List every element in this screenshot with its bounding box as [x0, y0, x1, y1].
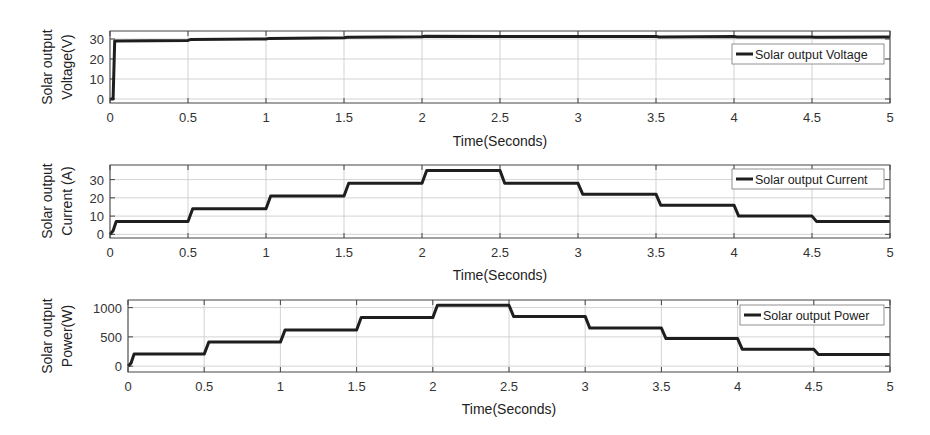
- voltage-ytick-labels: 0102030: [90, 32, 104, 107]
- xtick-label: 2: [418, 245, 425, 260]
- xtick-label: 0: [124, 379, 131, 394]
- xtick-label: 4.5: [805, 379, 823, 394]
- xtick-label: 2: [418, 110, 425, 125]
- xtick-label: 3: [582, 379, 589, 394]
- xtick-label: 3.5: [647, 110, 665, 125]
- xtick-label: 1.5: [348, 379, 366, 394]
- xtick-label: 5: [886, 379, 893, 394]
- power-xtick-labels: 00.511.522.533.544.55: [124, 379, 893, 394]
- xtick-label: 2.5: [491, 245, 509, 260]
- xtick-label: 5: [886, 110, 893, 125]
- xtick-label: 4: [730, 110, 737, 125]
- ytick-label: 0: [97, 227, 104, 242]
- ytick-label: 30: [90, 32, 104, 47]
- xtick-label: 4.5: [803, 110, 821, 125]
- ytick-label: 500: [100, 330, 122, 345]
- xtick-label: 1.5: [335, 110, 353, 125]
- voltage-subplot: 00.511.522.533.544.550102030Time(Seconds…: [39, 29, 894, 149]
- voltage-ylabel-line: Solar output: [39, 29, 55, 105]
- xtick-label: 1: [262, 245, 269, 260]
- ytick-label: 10: [90, 209, 104, 224]
- figure-canvas: 00.511.522.533.544.550102030Time(Seconds…: [0, 0, 930, 435]
- power-ylabel-line: Power(W): [59, 305, 75, 367]
- current-legend: Solar output Current: [732, 169, 884, 189]
- power-ylabel-line: Solar output: [39, 298, 55, 374]
- ytick-label: 0: [115, 359, 122, 374]
- legend-label: Solar output Current: [755, 173, 868, 187]
- voltage-ylabel-line: Voltage(V): [59, 34, 75, 99]
- ytick-label: 30: [90, 173, 104, 188]
- power-subplot: 00.511.522.533.544.5505001000Time(Second…: [39, 298, 894, 417]
- power-legend: Solar output Power: [740, 305, 884, 325]
- power-xlabel: Time(Seconds): [462, 401, 556, 417]
- ytick-label: 20: [90, 191, 104, 206]
- voltage-xtick-labels: 00.511.522.533.544.55: [106, 110, 893, 125]
- ytick-label: 0: [97, 92, 104, 107]
- xtick-label: 0: [106, 110, 113, 125]
- voltage-legend: Solar output Voltage: [732, 44, 884, 64]
- ytick-label: 1000: [93, 301, 122, 316]
- xtick-label: 4: [730, 245, 737, 260]
- xtick-label: 3.5: [647, 245, 665, 260]
- xtick-label: 2: [429, 379, 436, 394]
- xtick-label: 2.5: [500, 379, 518, 394]
- xtick-label: 4.5: [803, 245, 821, 260]
- xtick-label: 1: [262, 110, 269, 125]
- xtick-label: 0.5: [195, 379, 213, 394]
- power-ytick-labels: 05001000: [93, 301, 122, 375]
- current-xlabel: Time(Seconds): [453, 267, 547, 283]
- legend-label: Solar output Voltage: [755, 48, 868, 62]
- xtick-label: 4: [734, 379, 741, 394]
- xtick-label: 5: [886, 245, 893, 260]
- current-ytick-labels: 0102030: [90, 173, 104, 243]
- xtick-label: 3.5: [652, 379, 670, 394]
- xtick-label: 1: [277, 379, 284, 394]
- current-xtick-labels: 00.511.522.533.544.55: [106, 245, 893, 260]
- xtick-label: 1.5: [335, 245, 353, 260]
- current-subplot: 00.511.522.533.544.550102030Time(Seconds…: [39, 163, 894, 283]
- ytick-label: 20: [90, 52, 104, 67]
- xtick-label: 2.5: [491, 110, 509, 125]
- xtick-label: 3: [574, 245, 581, 260]
- xtick-label: 0.5: [179, 110, 197, 125]
- xtick-label: 0: [106, 245, 113, 260]
- current-ylabel-line: Solar output: [39, 163, 55, 239]
- xtick-label: 3: [574, 110, 581, 125]
- legend-label: Solar output Power: [763, 309, 869, 323]
- voltage-xlabel: Time(Seconds): [453, 133, 547, 149]
- ytick-label: 10: [90, 72, 104, 87]
- current-ylabel-line: Current (A): [59, 166, 75, 235]
- xtick-label: 0.5: [179, 245, 197, 260]
